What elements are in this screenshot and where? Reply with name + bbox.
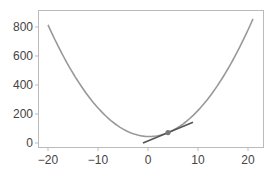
plot-frame [39,11,264,148]
x-tick-label: 10 [191,153,205,167]
x-tick-label: 20 [241,153,255,167]
x-axis: −20−1001020 [38,148,255,168]
y-tick-label: 400 [13,78,33,92]
chart: 0200400600800 −20−1001020 [0,0,279,175]
parabola-curve [48,19,253,137]
y-axis: 0200400600800 [13,20,39,150]
x-tick-label: −10 [88,153,109,167]
y-tick-label: 0 [26,136,33,150]
y-tick-label: 200 [13,107,33,121]
tangent-point-marker [165,130,170,135]
x-tick-label: 0 [145,153,152,167]
series-layer [48,19,253,143]
y-tick-label: 800 [13,20,33,34]
y-tick-label: 600 [13,49,33,63]
x-tick-label: −20 [38,153,59,167]
